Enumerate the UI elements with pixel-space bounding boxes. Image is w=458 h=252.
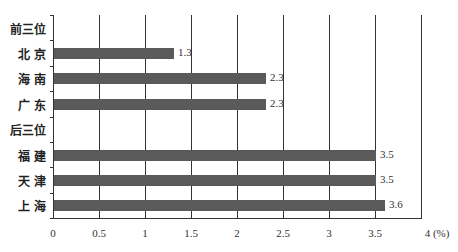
x-tick-label: 0: [50, 227, 56, 239]
gridline: [283, 15, 284, 218]
x-axis: [53, 218, 422, 219]
bar: [54, 175, 376, 186]
gridline: [237, 15, 238, 218]
gridline: [421, 15, 422, 218]
value-label: 3.5: [380, 173, 394, 185]
bar: [54, 200, 385, 211]
category-label: 天 津: [2, 172, 46, 189]
x-tick-label: 0.5: [92, 227, 106, 239]
x-tick-label: 3.5: [368, 227, 382, 239]
y-tick: [50, 66, 54, 67]
bar: [54, 99, 266, 110]
gridline: [145, 15, 146, 218]
x-tick-label: 2: [234, 227, 240, 239]
y-tick: [50, 193, 54, 194]
x-tick-label: 1.5: [184, 227, 198, 239]
category-label: 北 京: [2, 45, 46, 62]
category-label: 后三位: [2, 121, 46, 138]
value-label: 1.3: [178, 46, 192, 58]
bar: [54, 48, 174, 59]
y-tick: [50, 218, 54, 219]
category-label: 福 建: [2, 147, 46, 164]
x-tick-label: 3: [326, 227, 332, 239]
category-label: 前三位: [2, 20, 46, 37]
gridline: [375, 15, 376, 218]
bar: [54, 150, 376, 161]
value-label: 2.3: [270, 97, 284, 109]
category-label: 海 南: [2, 70, 46, 87]
category-label: 上 海: [2, 197, 46, 214]
gridline: [329, 15, 330, 218]
bar: [54, 73, 266, 84]
value-label: 3.6: [389, 198, 403, 210]
gridline: [99, 15, 100, 218]
y-tick: [50, 40, 54, 41]
y-tick: [50, 167, 54, 168]
x-tick-label: 2.5: [276, 227, 290, 239]
category-label: 广 东: [2, 96, 46, 113]
y-tick: [50, 117, 54, 118]
x-tick-label: 1: [142, 227, 148, 239]
y-tick: [50, 91, 54, 92]
x-tick-label: 4 (%): [425, 227, 450, 239]
y-tick: [50, 15, 54, 16]
value-label: 2.3: [270, 71, 284, 83]
value-label: 3.5: [380, 148, 394, 160]
bar-chart: 00.511.522.533.54 (%)前三位北 京1.3海 南2.3广 东2…: [0, 0, 458, 252]
y-tick: [50, 142, 54, 143]
